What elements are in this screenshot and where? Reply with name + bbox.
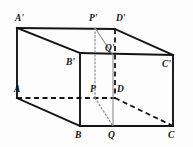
edge-Ap-Bp: [17, 28, 80, 53]
vertex-label-B: B: [75, 131, 81, 141]
line-P-Q: [95, 98, 113, 126]
edge-Bp-Cp: [80, 53, 173, 55]
vertex-label-B-prime: B': [66, 58, 75, 68]
edge-Dp-Cp: [115, 29, 173, 55]
vertex-label-Q: Q: [108, 131, 115, 141]
vertex-label-D: D: [117, 85, 124, 95]
vertex-label-C: C: [168, 131, 174, 141]
vertex-label-D-prime: D': [116, 14, 126, 24]
edge-D-C: [115, 98, 173, 126]
vertex-label-P-prime: P': [89, 14, 97, 24]
vertex-label-P: P: [90, 85, 96, 95]
cuboid-diagram: A'P'D'C'B'Q'APDBQC: [0, 0, 193, 147]
vertex-label-A: A: [14, 85, 20, 95]
edge-Ap-Dp: [17, 28, 115, 29]
edge-A-B: [17, 98, 80, 126]
vertex-label-A-prime: A': [15, 14, 24, 24]
vertex-label-C-prime: C': [162, 60, 171, 70]
vertex-label-Q-prime: Q': [105, 44, 115, 54]
